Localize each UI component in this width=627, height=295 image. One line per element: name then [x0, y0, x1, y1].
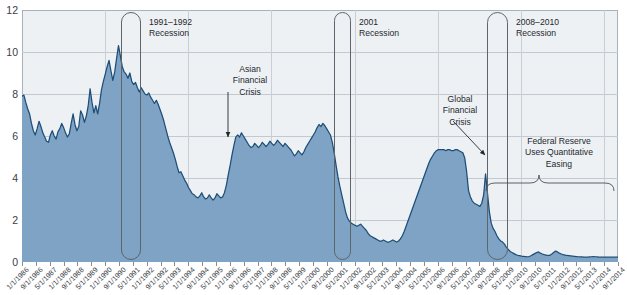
y-axis: 024681012 — [0, 10, 22, 262]
y-axis-label: 10 — [6, 47, 18, 58]
annotation-overlay — [22, 10, 618, 262]
y-axis-label: 2 — [12, 215, 18, 226]
y-axis-label: 12 — [6, 5, 18, 16]
plot-area: 1991–1992Recession2001Recession2008–2010… — [22, 10, 618, 262]
x-axis-labels: 1/1/19869/1/19865/1/19871/1/19889/1/1988… — [0, 266, 622, 295]
y-axis-label: 6 — [12, 131, 18, 142]
quantitative-easing-brace — [486, 175, 614, 191]
y-axis-label: 8 — [12, 89, 18, 100]
y-axis-label: 4 — [12, 173, 18, 184]
global-financial-crisis-arrow — [453, 121, 485, 155]
